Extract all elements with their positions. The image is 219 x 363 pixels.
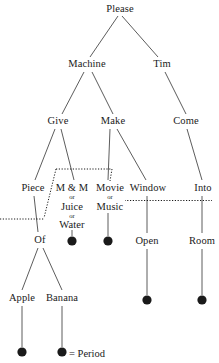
node-come: Come: [172, 116, 199, 127]
terminal-dot-banana: [57, 347, 66, 356]
node-into: Into: [193, 183, 212, 194]
node-open: Open: [134, 236, 159, 247]
edge-please-tim: [122, 16, 158, 57]
edge-machine-make: [92, 72, 113, 114]
edge-give-piece: [35, 129, 55, 180]
edge-please-machine: [90, 16, 118, 57]
terminal-dot-apple: [17, 347, 26, 356]
edge-of-apple: [22, 248, 38, 290]
node-machine: Machine: [67, 59, 106, 70]
node-give: Give: [47, 116, 70, 127]
edge-give-mm: [61, 129, 74, 180]
legend-period-label: = Period: [69, 348, 105, 359]
edge-come-into: [187, 129, 202, 180]
node-mm-primary: M & M: [56, 182, 89, 193]
edge-machine-give: [62, 72, 84, 114]
node-of: Of: [33, 235, 46, 246]
node-piece: Piece: [20, 183, 45, 194]
terminal-dot-open: [142, 295, 151, 304]
edge-make-movie: [108, 129, 110, 180]
node-apple: Apple: [8, 293, 36, 304]
node-movie-primary: Movie: [96, 182, 124, 193]
node-tim: Tim: [152, 59, 171, 70]
node-mm-alternatives: M & M or Juice or Water: [55, 182, 90, 230]
node-movie-alternatives: Movie or Music: [95, 182, 125, 212]
node-mm-or-2: or: [56, 212, 89, 220]
node-mm-or-1: or: [56, 193, 89, 201]
edge-make-window: [117, 129, 146, 180]
node-movie-or: or: [96, 193, 124, 201]
terminal-dot-room: [197, 295, 206, 304]
node-mm-alt-1: Juice: [56, 201, 89, 212]
node-please: Please: [105, 4, 134, 15]
node-window: Window: [129, 183, 167, 194]
node-mm-alt-2: Water: [56, 219, 89, 230]
edge-of-banana: [43, 248, 62, 290]
node-banana: Banana: [45, 293, 79, 304]
edge-tim-come: [165, 72, 186, 114]
node-room: Room: [188, 236, 216, 247]
node-make: Make: [100, 116, 126, 127]
terminal-dot-mm: [67, 236, 76, 245]
terminal-dot-movie: [103, 236, 112, 245]
node-movie-alt: Music: [96, 201, 124, 212]
edge-piece-of: [34, 196, 38, 232]
dotted-link-top-down: [110, 169, 112, 181]
